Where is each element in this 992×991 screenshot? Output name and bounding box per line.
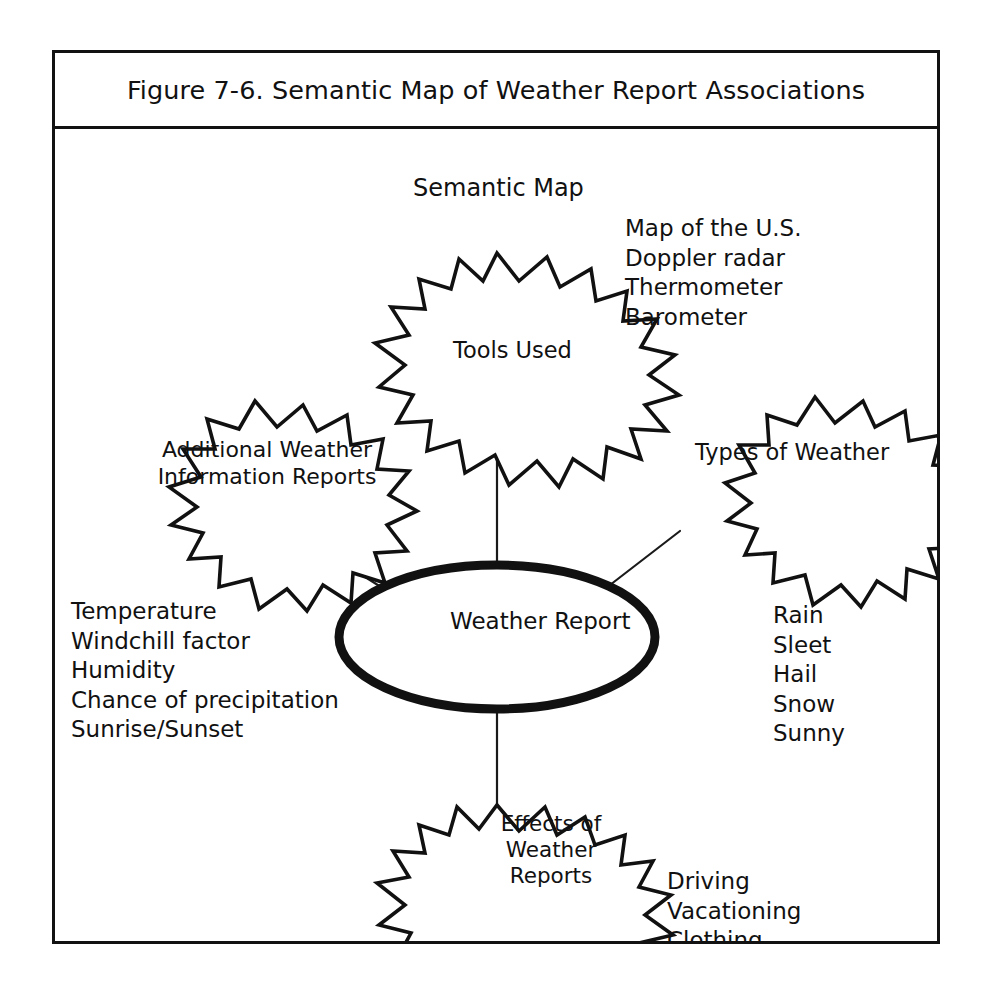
list-item: Sunny — [773, 719, 845, 749]
item-list-additional-weather-information-reports: Temperature Windchill factor Humidity Ch… — [71, 597, 339, 745]
center-ellipse-weather-report — [339, 565, 655, 709]
list-item: Snow — [773, 690, 845, 720]
list-item: Sleet — [773, 631, 845, 661]
node-label-line-1: Additional Weather — [133, 437, 401, 464]
starburst-additional-weather-information-reports — [169, 401, 417, 611]
list-item: Map of the U.S. — [625, 214, 801, 244]
figure-page: Figure 7-6. Semantic Map of Weather Repo… — [0, 0, 992, 991]
node-label-types-of-weather: Types of Weather — [695, 439, 889, 466]
semantic-map-heading: Semantic Map — [413, 173, 584, 203]
list-item: Sunrise/Sunset — [71, 715, 339, 745]
list-item: Driving — [667, 867, 801, 897]
node-label-tools-used: Tools Used — [453, 337, 572, 364]
list-item: Vacationing — [667, 897, 801, 927]
item-list-effects-of-weather-reports: Driving Vacationing Clothing — [667, 867, 801, 941]
item-list-tools-used: Map of the U.S. Doppler radar Thermomete… — [625, 214, 801, 332]
list-item: Chance of precipitation — [71, 686, 339, 716]
list-item: Humidity — [71, 656, 339, 686]
semantic-map-canvas: Semantic Map Tools Used Additional Weath… — [55, 129, 937, 941]
figure-caption: Figure 7-6. Semantic Map of Weather Repo… — [127, 75, 865, 105]
list-item: Rain — [773, 601, 845, 631]
starburst-types-of-weather — [725, 397, 937, 607]
node-label-additional-weather-information-reports: Additional Weather Information Reports — [133, 437, 401, 491]
list-item: Temperature — [71, 597, 339, 627]
list-item: Doppler radar — [625, 244, 801, 274]
list-item: Thermometer — [625, 273, 801, 303]
node-label-line-2: Information Reports — [133, 464, 401, 491]
node-label-line-1: Effects of — [461, 811, 641, 837]
figure-caption-bar: Figure 7-6. Semantic Map of Weather Repo… — [55, 53, 937, 129]
item-list-types-of-weather: Rain Sleet Hail Snow Sunny — [773, 601, 845, 749]
list-item: Clothing — [667, 926, 801, 941]
list-item: Barometer — [625, 303, 801, 333]
node-label-line-2: Weather — [461, 837, 641, 863]
list-item: Windchill factor — [71, 627, 339, 657]
list-item: Hail — [773, 660, 845, 690]
center-node-label: Weather Report — [450, 607, 630, 635]
node-label-effects-of-weather-reports: Effects of Weather Reports — [461, 811, 641, 890]
node-label-line-3: Reports — [461, 863, 641, 889]
figure-frame: Figure 7-6. Semantic Map of Weather Repo… — [52, 50, 940, 944]
